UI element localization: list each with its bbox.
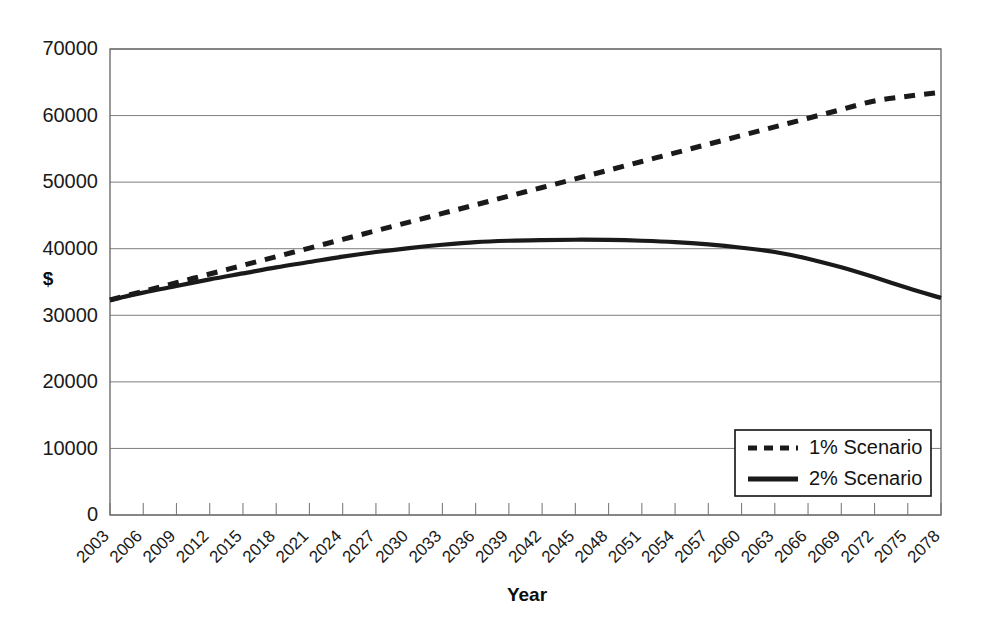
- x-tick-label: 2075: [870, 526, 910, 566]
- y-tick-label: 30000: [42, 304, 98, 326]
- x-tick-label: 2054: [638, 526, 678, 566]
- x-tick-label: 2060: [704, 526, 744, 566]
- y-tick-label: 50000: [42, 170, 98, 192]
- y-tick-label: 20000: [42, 370, 98, 392]
- x-tick-label: 2078: [904, 526, 944, 566]
- chart-container: 010000200003000040000500006000070000 200…: [0, 0, 998, 633]
- x-tick-label: 2006: [106, 526, 146, 566]
- x-tick-label: 2045: [538, 526, 578, 566]
- y-axis-title: $: [43, 268, 54, 289]
- x-tick-label: 2048: [571, 526, 611, 566]
- x-tick-label: 2030: [372, 526, 412, 566]
- x-tick-label: 2033: [405, 526, 445, 566]
- x-axis-title: Year: [507, 584, 548, 605]
- line-chart: 010000200003000040000500006000070000 200…: [0, 0, 998, 633]
- x-tick-label: 2039: [472, 526, 512, 566]
- x-tick-label: 2063: [737, 526, 777, 566]
- x-tick-label: 2027: [339, 526, 379, 566]
- legend-label[interactable]: 2% Scenario: [809, 467, 922, 489]
- x-tick-label: 2021: [272, 526, 312, 566]
- series-layer: [110, 92, 941, 300]
- series-dashed: [110, 92, 941, 300]
- x-tick-label: 2018: [239, 526, 279, 566]
- y-tick-label: 40000: [42, 237, 98, 259]
- x-tick-label: 2069: [804, 526, 844, 566]
- x-tick-label: 2042: [505, 526, 545, 566]
- x-axis-tick-labels: 2003200620092012201520182021202420272030…: [73, 526, 944, 566]
- y-tick-label: 10000: [42, 437, 98, 459]
- x-tick-label: 2024: [305, 526, 345, 566]
- x-tick-label: 2072: [837, 526, 877, 566]
- x-tick-label: 2003: [73, 526, 113, 566]
- x-tick-label: 2051: [604, 526, 644, 566]
- x-tick-label: 2015: [206, 526, 246, 566]
- x-tick-label: 2036: [438, 526, 478, 566]
- chart-legend[interactable]: 1% Scenario2% Scenario: [735, 430, 931, 496]
- y-tick-label: 60000: [42, 104, 98, 126]
- y-tick-label: 70000: [42, 37, 98, 59]
- x-tick-label: 2009: [139, 526, 179, 566]
- x-tick-label: 2057: [671, 526, 711, 566]
- y-tick-label: 0: [87, 503, 98, 525]
- x-tickmarks-group: [110, 503, 941, 515]
- legend-label[interactable]: 1% Scenario: [809, 436, 922, 458]
- x-tick-label: 2066: [771, 526, 811, 566]
- x-tick-label: 2012: [172, 526, 212, 566]
